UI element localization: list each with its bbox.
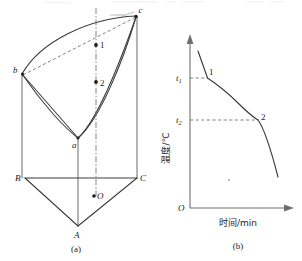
y-axis (187, 34, 194, 208)
point-o: O (92, 191, 104, 201)
figure-root: 1 2 O c b a B C A (0, 0, 302, 261)
vertex-label-B: B (15, 173, 21, 183)
vertex-label-b: b (13, 65, 18, 75)
scan-speck (228, 179, 230, 181)
x-axis-title: 时间/min (219, 217, 257, 228)
panel-a-caption: (a) (71, 244, 81, 254)
prism-vertical-edges (22, 16, 137, 226)
curve-point-2-label: 2 (261, 112, 266, 122)
x-axis (190, 205, 294, 212)
panel-b: 1 2 t1 t2 O 温度/℃ 时间/min (b) (160, 34, 294, 251)
liquidus-surface-curves (22, 16, 136, 138)
vertex-label-a: a (72, 140, 77, 150)
ytick-label-t1: t1 (176, 73, 182, 84)
panel-a: 1 2 O c b a B C A (13, 5, 147, 254)
vertex-dots (21, 15, 138, 140)
panel-b-caption: (b) (233, 241, 244, 251)
vertex-label-A: A (73, 230, 80, 240)
point-o-label: O (97, 191, 104, 201)
marked-point-1: 1 (94, 40, 104, 50)
ytick-label-t2: t2 (176, 115, 183, 126)
ytick-t1-sub: 1 (179, 77, 182, 84)
marked-point-1-label: 1 (100, 40, 105, 50)
svg-text:t1: t1 (176, 73, 182, 84)
vertex-label-C: C (140, 173, 147, 183)
figure-svg: 1 2 O c b a B C A (0, 0, 302, 261)
svg-text:t2: t2 (176, 115, 183, 126)
scan-noise (44, 2, 284, 17)
curve-point-1-label: 1 (209, 67, 214, 77)
marked-point-2-label: 2 (100, 78, 105, 88)
y-axis-title: 温度/℃ (160, 132, 171, 163)
ytick-t2-sub: 2 (179, 119, 183, 126)
origin-label: O (178, 203, 185, 213)
prism-base-triangle (25, 178, 137, 226)
vertex-label-c: c (139, 5, 143, 15)
